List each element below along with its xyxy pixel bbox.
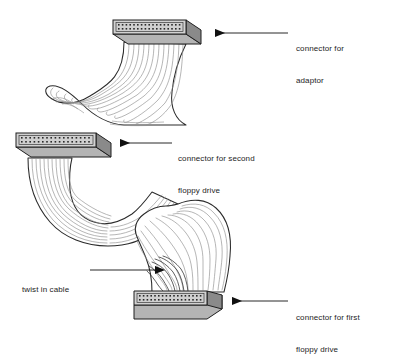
adaptor-connector[interactable]	[113, 20, 201, 44]
first-floppy-connector-pin-well	[137, 294, 204, 303]
label-adaptor-line2: adaptor	[296, 76, 344, 87]
label-twist-in-cable: twist in cable	[22, 264, 69, 317]
second-floppy-connector-pin-well	[19, 136, 93, 145]
second-floppy-connector[interactable]	[16, 133, 111, 157]
label-second-line2: floppy drive	[178, 186, 255, 197]
adaptor-connector-pin-well	[116, 23, 183, 32]
first-floppy-connector[interactable]	[134, 291, 222, 319]
label-twist-line1: twist in cable	[22, 285, 69, 296]
label-first-line1: connector for first	[296, 313, 360, 324]
label-adaptor-line1: connector for	[296, 44, 344, 55]
label-first-line2: floppy drive	[296, 345, 360, 356]
second-floppy-connector-front-face	[16, 147, 111, 157]
label-second-line1: connector for second	[178, 154, 255, 165]
cable-segment-upper	[46, 42, 186, 126]
label-connector-for-second-floppy-drive: connector for second floppy drive	[178, 133, 255, 217]
label-connector-for-first-floppy-drive: connector for first floppy drive	[296, 292, 360, 358]
label-connector-for-adaptor: connector for adaptor	[296, 23, 344, 107]
